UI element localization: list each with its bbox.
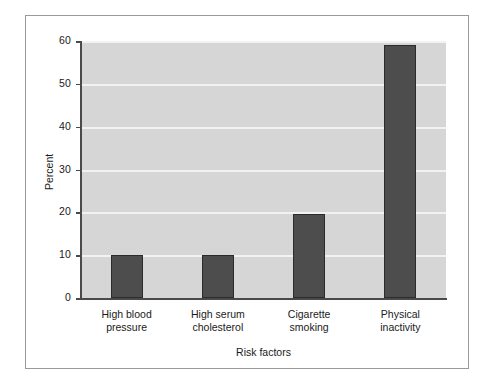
figure-frame: Percent Risk factors 0102030405060High b…	[25, 15, 469, 369]
y-tick-mark	[76, 41, 81, 43]
bar	[202, 255, 234, 298]
x-axis-line	[80, 298, 447, 300]
x-axis-title: Risk factors	[81, 346, 446, 358]
y-tick-label: 20	[29, 205, 71, 217]
x-category-label: Physical inactivity	[355, 308, 446, 334]
chart-figure: Percent Risk factors 0102030405060High b…	[0, 0, 493, 384]
y-tick-label: 50	[29, 77, 71, 89]
x-category-label: High serum cholesterol	[172, 308, 263, 334]
y-tick-mark	[76, 255, 81, 257]
y-tick-mark	[76, 212, 81, 214]
x-category-label: Cigarette smoking	[264, 308, 355, 334]
y-tick-label: 30	[29, 163, 71, 175]
y-tick-mark	[76, 84, 81, 86]
bar	[384, 45, 416, 298]
y-tick-label: 0	[29, 291, 71, 303]
y-tick-mark	[76, 127, 81, 129]
x-category-label: High blood pressure	[81, 308, 172, 334]
y-tick-mark	[76, 298, 81, 300]
y-tick-label: 10	[29, 248, 71, 260]
gridline	[81, 41, 446, 43]
y-tick-label: 40	[29, 120, 71, 132]
bar	[111, 255, 143, 298]
y-tick-mark	[76, 170, 81, 172]
y-tick-label: 60	[29, 34, 71, 46]
bar	[293, 214, 325, 298]
